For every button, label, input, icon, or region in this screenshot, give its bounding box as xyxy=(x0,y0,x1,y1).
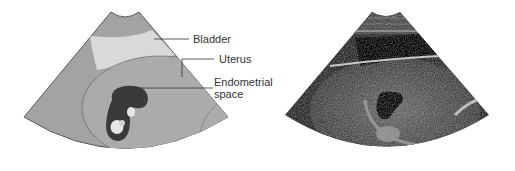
sonogram-panel xyxy=(270,0,515,171)
uterus-region xyxy=(82,56,238,160)
schematic-diagram-panel: Bladder Uterus Endometrial space xyxy=(0,0,270,171)
fetal-part-small xyxy=(127,107,135,117)
label-uterus: Uterus xyxy=(219,53,251,65)
label-space: space xyxy=(214,88,243,100)
sonogram-image xyxy=(270,0,515,171)
label-endometrial: Endometrial xyxy=(214,76,273,88)
label-bladder: Bladder xyxy=(193,33,231,45)
